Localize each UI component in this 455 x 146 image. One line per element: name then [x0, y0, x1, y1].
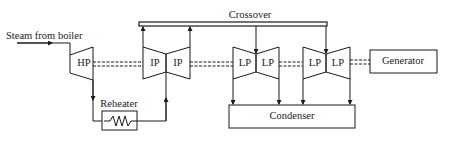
- ip-label-right: IP: [173, 58, 182, 69]
- ip-label-left: IP: [150, 58, 159, 69]
- hp-label: HP: [77, 58, 90, 69]
- reheater-label: Reheater: [100, 99, 137, 110]
- crossover-pipe: [139, 22, 327, 26]
- generator-label: Generator: [382, 56, 424, 67]
- steam-inlet-label: Steam from boiler: [6, 31, 82, 42]
- lp-label-1: LP: [239, 58, 251, 69]
- crossover-label: Crossover: [229, 10, 272, 21]
- lp-label-3: LP: [309, 58, 321, 69]
- steam-inlet-line: [17, 43, 70, 55]
- lp-label-4: LP: [332, 58, 344, 69]
- lp-label-2: LP: [262, 58, 274, 69]
- turbine-diagram: [0, 0, 455, 146]
- reheater-coil: [104, 116, 137, 126]
- condenser-label: Condenser: [270, 111, 315, 122]
